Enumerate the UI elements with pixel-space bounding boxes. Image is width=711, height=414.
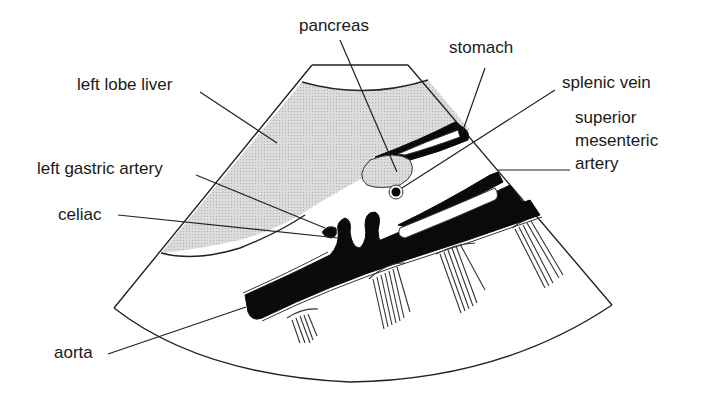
leader-left-lobe-liver <box>200 92 277 143</box>
label-aorta: aorta <box>54 343 93 362</box>
label-left-gastric-artery: left gastric artery <box>37 159 163 178</box>
label-left-lobe-liver: left lobe liver <box>77 75 173 94</box>
label-splenic-vein: splenic vein <box>562 73 651 92</box>
splenic-vein-core <box>392 188 401 197</box>
acoustic-shadow-4 <box>512 220 563 288</box>
label-celiac: celiac <box>58 205 102 224</box>
label-pancreas: pancreas <box>299 16 369 35</box>
leader-aorta <box>108 307 246 354</box>
leader-stomach <box>462 68 485 133</box>
acoustic-shadow-1 <box>287 309 318 343</box>
acoustic-shadow-3 <box>436 243 485 313</box>
acoustic-shadow-2 <box>369 263 410 329</box>
label-stomach: stomach <box>449 38 513 57</box>
label-artery: artery <box>575 154 619 173</box>
label-mesenteric: mesenteric <box>575 131 659 150</box>
label-superior: superior <box>575 108 637 127</box>
ultrasound-diagram: pancreas stomach left lobe liver splenic… <box>0 0 711 414</box>
